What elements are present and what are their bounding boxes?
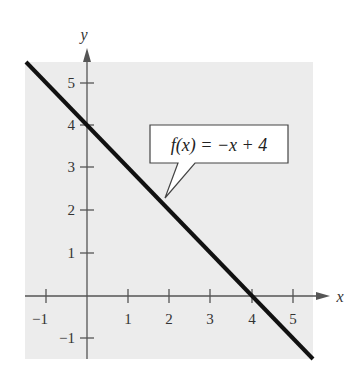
y-tick-label: 1 xyxy=(68,245,76,261)
x-tick-label: −1 xyxy=(32,311,48,327)
y-tick-label: 4 xyxy=(68,117,76,133)
function-graph: y 5 4 3 2 1 −1 x −1 1 2 3 4 5 f( xyxy=(0,0,361,383)
x-tick-label: 1 xyxy=(124,311,132,327)
x-tick-label: 3 xyxy=(206,311,214,327)
x-axis-label: x xyxy=(335,288,343,305)
equation-label: f(x) = −x + 4 xyxy=(171,135,267,156)
y-axis-label: y xyxy=(78,26,88,44)
x-tick-label: 4 xyxy=(248,311,256,327)
y-tick-label: 3 xyxy=(68,159,76,175)
y-tick-label: 2 xyxy=(68,202,76,218)
y-tick-label: 5 xyxy=(68,75,76,91)
y-tick-label: −1 xyxy=(59,330,75,346)
y-axis-arrow-icon xyxy=(83,48,91,62)
x-tick-label: 2 xyxy=(165,311,173,327)
x-axis-arrow-icon xyxy=(316,292,330,300)
x-tick-label: 5 xyxy=(289,311,297,327)
